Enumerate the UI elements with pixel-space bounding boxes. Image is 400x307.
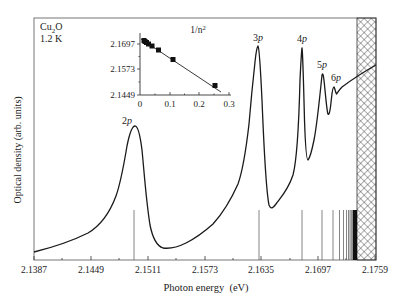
x-tick-label: 2.1759 [362, 265, 388, 275]
x-tick-label: 2.1697 [305, 265, 331, 275]
inset-x-tick-label: 0.3 [223, 99, 235, 109]
peak-label-3p: 3p [253, 32, 263, 43]
hatched-continuum-region [357, 18, 376, 260]
inset-y-tick-label: 2.1573 [110, 64, 135, 74]
x-tick-label: 2.1635 [248, 265, 274, 275]
inset-x-tick-label: 0 [138, 99, 143, 109]
inset-x-tick-label: 0.2 [193, 99, 204, 109]
x-tick-label: 2.1449 [78, 265, 104, 275]
peak-label-2p: 2p [122, 115, 132, 126]
x-tick-label: 2.1511 [135, 265, 161, 275]
inset-title: 1/n2 [190, 24, 205, 36]
inset-y-tick-label: 2.1449 [110, 90, 135, 100]
plot-frame [34, 18, 376, 260]
inset-point [142, 38, 147, 43]
inset-point [171, 57, 176, 62]
inset-point [213, 83, 218, 88]
inset-data-points [142, 38, 218, 88]
x-tick-label: 2.1573 [192, 265, 218, 275]
spectrum-chart: 2.1387 2.1449 2.1511 2.1573 2.1635 2.169… [0, 0, 400, 307]
inset-y-tick-label: 2.1697 [110, 39, 135, 49]
exciton-lines [134, 210, 352, 260]
peak-label-6p: 6p [331, 72, 341, 83]
y-axis-label: Optical density (arb. units) [12, 96, 24, 203]
peak-label-4p: 4p [297, 33, 307, 44]
spectrum-curve [34, 46, 376, 252]
x-axis-label: Photon energy (eV) [163, 282, 249, 294]
temperature-label: 1.2 K [40, 33, 63, 44]
exciton-lines-convergence [353, 210, 357, 260]
peak-label-5p: 5p [317, 59, 327, 70]
inset-point [156, 48, 161, 53]
x-tick-label: 2.1387 [21, 265, 47, 275]
peak-labels: 2p 3p 4p 5p 6p [122, 32, 341, 126]
inset-plot: 2.1697 2.1573 2.1449 0 0.1 0.2 0.3 1/n2 [110, 24, 235, 110]
inset-x-tick-label: 0.1 [164, 99, 175, 109]
x-tick-labels: 2.1387 2.1449 2.1511 2.1573 2.1635 2.169… [21, 265, 388, 275]
x-axis [34, 256, 375, 260]
